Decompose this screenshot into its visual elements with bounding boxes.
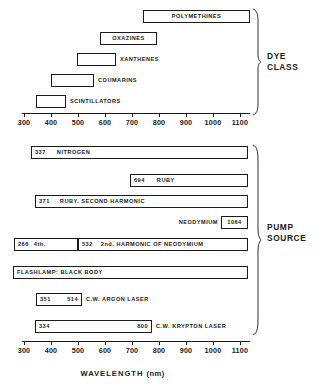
axis-caption-unit: (nm) <box>147 369 165 378</box>
pump-bar-flashlamp: FLASHLAMP: BLACK BODY <box>13 266 248 279</box>
pump-axis-label-600: 600 <box>99 347 112 354</box>
dye-axis-tick-500 <box>78 113 79 117</box>
wavelength-chart: POLYMETHINES OXAZINES XANTHENES COUMARIN… <box>0 0 325 389</box>
pump-source-panel: 337 NITROGEN 694 RUBY 371 RUBY. SECOND H… <box>0 146 325 336</box>
dye-bar-polymethines: POLYMETHINES <box>143 10 250 23</box>
pump-axis-tick-400 <box>51 341 52 345</box>
pump-axis-tick-500 <box>78 341 79 345</box>
dye-bar-coumarins <box>51 74 94 87</box>
dye-bar-coumarins-label: COUMARINS <box>98 74 137 87</box>
pump-bar-ruby-label: RUBY <box>145 178 175 184</box>
pump-bar-argon: 351 514 <box>36 293 82 306</box>
pump-bar-argon-value-low: 351 <box>37 297 51 303</box>
pump-axis-label-1000: 1000 <box>205 347 222 354</box>
pump-bar-second-harmonic-value: 532 <box>79 242 93 248</box>
pump-bar-ruby-second-harmonic-label: RUBY. SECOND HARMONIC <box>50 199 145 205</box>
dye-axis-label-800: 800 <box>153 119 166 126</box>
dye-bar-xanthenes-label: XANTHENES <box>120 53 159 66</box>
pump-axis-label-300: 300 <box>18 347 31 354</box>
pump-axis-label-700: 700 <box>126 347 139 354</box>
pump-axis-label-900: 900 <box>180 347 193 354</box>
pump-axis-tick-1100 <box>240 341 241 345</box>
pump-bar-ruby-second-harmonic: 371 RUBY. SECOND HARMONIC <box>35 195 248 208</box>
pump-bar-argon-label: C.W. ARGON LASER <box>86 293 149 306</box>
dye-bar-oxazines-label: OXAZINES <box>101 36 156 42</box>
dye-bar-scintillators-label: SCINTILLATORS <box>70 95 121 108</box>
pump-axis-tick-900 <box>186 341 187 345</box>
pump-bar-krypton-label: C.W. KRYPTON LASER <box>156 320 226 333</box>
pump-axis-tick-600 <box>105 341 106 345</box>
pump-bar-fourth-harmonic-label: 4th. <box>29 242 46 248</box>
pump-axis-label-800: 800 <box>153 347 166 354</box>
dye-bar-xanthenes <box>77 53 116 66</box>
pump-bar-nitrogen: 337 NITROGEN <box>31 146 248 159</box>
pump-bar-krypton: 334 800 <box>35 320 152 333</box>
pump-bar-krypton-value-high: 800 <box>137 324 151 330</box>
pump-axis-tick-1000 <box>213 341 214 345</box>
pump-bar-ruby-second-harmonic-value: 371 <box>36 199 50 205</box>
pump-bar-neodymium-value: 1064 <box>222 220 247 226</box>
pump-source-brace <box>252 144 262 336</box>
dye-axis-tick-300 <box>24 113 25 117</box>
dye-bar-scintillators <box>36 95 66 108</box>
dye-bar-polymethines-label: POLYMETHINES <box>144 14 249 20</box>
pump-axis-tick-800 <box>159 341 160 345</box>
dye-class-panel: POLYMETHINES OXAZINES XANTHENES COUMARIN… <box>0 0 325 130</box>
axis-caption: WAVELENGTH (nm) <box>0 370 285 378</box>
pump-axis-tick-700 <box>132 341 133 345</box>
pump-axis-label-500: 500 <box>72 347 85 354</box>
pump-axis-label-1100: 1100 <box>232 347 248 354</box>
dye-class-axis: 300 400 500 600 700 800 900 1000 1100 <box>0 113 325 139</box>
dye-axis-label-1000: 1000 <box>205 119 222 126</box>
dye-axis-tick-800 <box>159 113 160 117</box>
dye-axis-label-500: 500 <box>72 119 85 126</box>
pump-source-axis: 300 400 500 600 700 800 900 1000 1100 <box>0 341 325 367</box>
dye-axis-label-400: 400 <box>45 119 58 126</box>
pump-bar-flashlamp-label: FLASHLAMP: BLACK BODY <box>14 270 103 276</box>
pump-bar-neodymium-label: NEODYMIUM <box>150 216 218 229</box>
dye-axis-label-300: 300 <box>18 119 31 126</box>
dye-class-brace <box>252 8 262 116</box>
pump-axis-tick-300 <box>24 341 25 345</box>
dye-axis-label-1100: 1100 <box>232 119 248 126</box>
pump-bar-fourth-harmonic-value: 266 <box>15 242 29 248</box>
pump-axis-label-400: 400 <box>45 347 58 354</box>
axis-caption-text: WAVELENGTH <box>80 369 143 378</box>
dye-class-group-label: DYE CLASS <box>267 51 298 72</box>
pump-axis-line <box>22 341 250 342</box>
pump-bar-argon-value-high: 514 <box>67 297 81 303</box>
pump-source-group-label: PUMP SOURCE <box>267 222 306 243</box>
pump-bar-fourth-harmonic: 266 4th. <box>14 238 78 251</box>
dye-axis-label-600: 600 <box>99 119 112 126</box>
dye-axis-tick-400 <box>51 113 52 117</box>
dye-axis-tick-1000 <box>213 113 214 117</box>
dye-axis-tick-700 <box>132 113 133 117</box>
dye-bar-oxazines: OXAZINES <box>100 32 157 45</box>
dye-axis-tick-600 <box>105 113 106 117</box>
pump-bar-nitrogen-value: 337 <box>32 150 46 156</box>
pump-bar-ruby-value: 694 <box>131 178 145 184</box>
pump-bar-krypton-value-low: 334 <box>36 324 50 330</box>
pump-bar-second-harmonic: 532 2nd. HARMONIC OF NEODYMIUM <box>78 238 248 251</box>
dye-axis-tick-900 <box>186 113 187 117</box>
dye-axis-tick-1100 <box>240 113 241 117</box>
dye-axis-line <box>22 113 250 114</box>
pump-bar-neodymium: 1064 <box>221 216 248 229</box>
dye-axis-label-700: 700 <box>126 119 139 126</box>
pump-bar-nitrogen-label: NITROGEN <box>46 150 91 156</box>
pump-bar-ruby: 694 RUBY <box>130 174 248 187</box>
dye-axis-label-900: 900 <box>180 119 193 126</box>
pump-bar-second-harmonic-label: 2nd. HARMONIC OF NEODYMIUM <box>93 242 204 248</box>
